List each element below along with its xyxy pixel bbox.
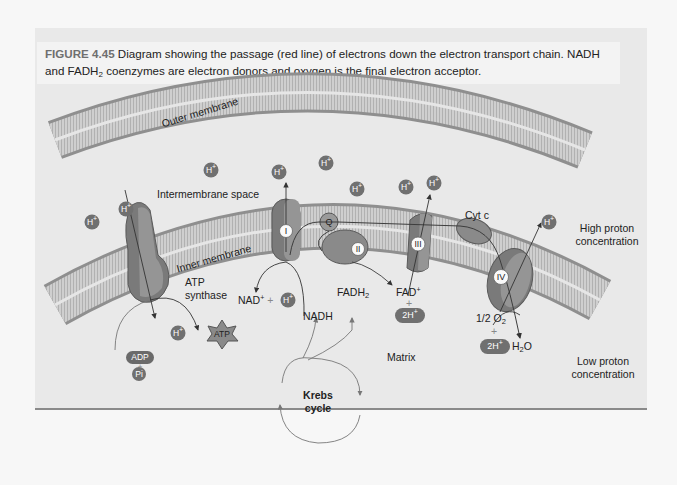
h-plus-3: H+ — [318, 157, 334, 170]
nad-plus-label: NAD+ + — [238, 294, 273, 307]
complex-i-label: I — [279, 225, 293, 238]
nadh-label: NADH — [303, 310, 333, 323]
h-plus-8: H+ — [426, 177, 442, 190]
coenzyme-q-label: Q — [322, 216, 336, 229]
krebs-cycle-label: Krebscycle — [296, 389, 340, 415]
two-h-plus-1: 2H+ — [395, 309, 425, 322]
complex-iii-label: III — [411, 238, 425, 251]
complex-ii-label: II — [351, 243, 365, 256]
adp-arrow — [115, 300, 150, 350]
cyt-c-label: Cyt c — [465, 209, 489, 222]
h-plus-10: H+ — [280, 294, 296, 307]
h2o-label: H2O — [512, 340, 532, 353]
h-plus-5: H+ — [84, 216, 100, 229]
intermembrane-space-label: Intermembrane space — [157, 188, 259, 201]
fad-plus-sign: + — [406, 297, 412, 310]
high-proton-label: High protonconcentration — [562, 222, 652, 248]
h-plus-11: H+ — [170, 327, 186, 340]
h-plus-7: H+ — [398, 181, 414, 194]
atp-synthase-label: ATPsynthase — [185, 276, 227, 302]
outer-membrane — [55, 92, 585, 150]
half-o2-label: 1/2 O2 — [476, 312, 506, 325]
o2-plus-sign: + — [491, 325, 497, 338]
h-plus-4: H+ — [349, 183, 365, 196]
h-plus-9: H+ — [541, 216, 557, 229]
h-plus-2: H+ — [271, 166, 287, 179]
h-plus-6: H+ — [118, 203, 134, 216]
arrow-to-fad — [352, 262, 392, 285]
atp-label: ATP — [207, 328, 237, 341]
fadh2-label: FADH2 — [337, 286, 369, 299]
complex-iv-label: IV — [493, 271, 509, 284]
matrix-label: Matrix — [387, 351, 416, 364]
h-plus-1: H+ — [203, 164, 219, 177]
atp-arrow — [150, 298, 198, 330]
krebs-cycle — [280, 318, 360, 443]
two-h-plus-2: 2H+ — [480, 340, 510, 353]
low-proton-label: Low protonconcentration — [558, 355, 648, 381]
adp-plus: + — [133, 360, 147, 373]
